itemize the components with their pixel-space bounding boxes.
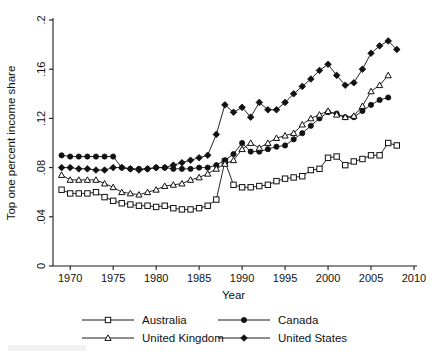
y-tick-label-4: .16 bbox=[35, 62, 47, 77]
x-tick-label-6: 2000 bbox=[316, 272, 340, 284]
y-tick-label-3: .12 bbox=[35, 111, 47, 126]
datapoint-united-kingdom-1976 bbox=[119, 189, 125, 195]
datapoint-united-states-2004 bbox=[359, 66, 366, 73]
legend-label-australia: Australia bbox=[142, 314, 187, 326]
datapoint-australia-1993 bbox=[265, 182, 270, 187]
datapoint-australia-1991 bbox=[248, 185, 253, 190]
datapoint-canada-2005 bbox=[368, 102, 373, 107]
datapoint-australia-1986 bbox=[205, 203, 210, 208]
datapoint-canada-2007 bbox=[386, 95, 391, 100]
datapoint-united-kingdom-1969 bbox=[58, 172, 64, 178]
datapoint-australia-2005 bbox=[368, 153, 373, 158]
datapoint-australia-2007 bbox=[386, 140, 391, 145]
series-line-united-states bbox=[62, 41, 397, 170]
datapoint-australia-1998 bbox=[308, 167, 313, 172]
datapoint-australia-2002 bbox=[343, 162, 348, 167]
datapoint-australia-2001 bbox=[334, 154, 339, 159]
datapoint-canada-1974 bbox=[102, 154, 107, 159]
legend-label-united-states: United States bbox=[278, 332, 347, 344]
datapoint-united-states-1984 bbox=[187, 157, 194, 164]
datapoint-australia-1995 bbox=[282, 176, 287, 181]
datapoint-united-states-1973 bbox=[93, 167, 100, 174]
datapoint-australia-1977 bbox=[128, 202, 133, 207]
datapoint-canada-1989 bbox=[231, 151, 236, 156]
legend-marker-canada bbox=[241, 317, 246, 322]
datapoint-australia-2004 bbox=[360, 156, 365, 161]
scan-artifact bbox=[8, 345, 86, 351]
datapoint-united-kingdom-1999 bbox=[316, 112, 322, 118]
datapoint-united-kingdom-1991 bbox=[248, 140, 254, 146]
datapoint-united-kingdom-1980 bbox=[153, 187, 159, 193]
datapoint-canada-1991 bbox=[248, 149, 253, 154]
datapoint-united-states-1986 bbox=[204, 152, 211, 159]
datapoint-canada-1983 bbox=[179, 166, 184, 171]
datapoint-canada-1998 bbox=[308, 123, 313, 128]
datapoint-australia-1971 bbox=[76, 191, 81, 196]
datapoint-australia-1996 bbox=[291, 175, 296, 180]
datapoint-canada-1990 bbox=[239, 140, 244, 145]
datapoint-united-states-1971 bbox=[75, 166, 82, 173]
datapoint-united-kingdom-2005 bbox=[368, 88, 374, 94]
datapoint-united-states-1983 bbox=[179, 159, 186, 166]
datapoint-united-kingdom-1986 bbox=[205, 171, 211, 177]
datapoint-australia-1997 bbox=[300, 174, 305, 179]
datapoint-australia-1979 bbox=[145, 203, 150, 208]
datapoint-united-states-1974 bbox=[101, 167, 108, 174]
datapoint-united-states-1969 bbox=[58, 164, 65, 171]
datapoint-united-states-1970 bbox=[67, 164, 74, 171]
datapoint-australia-1972 bbox=[85, 191, 90, 196]
datapoint-canada-1995 bbox=[282, 143, 287, 148]
datapoint-united-kingdom-1990 bbox=[239, 146, 245, 152]
datapoint-united-states-1987 bbox=[213, 131, 220, 138]
datapoint-australia-1982 bbox=[171, 205, 176, 210]
datapoint-australia-1975 bbox=[110, 198, 115, 203]
datapoint-australia-1989 bbox=[231, 182, 236, 187]
datapoint-australia-2008 bbox=[394, 143, 399, 148]
x-tick-label-5: 1995 bbox=[273, 272, 297, 284]
datapoint-united-kingdom-2007 bbox=[385, 72, 391, 78]
datapoint-united-states-1972 bbox=[84, 166, 91, 173]
datapoint-united-kingdom-1974 bbox=[101, 180, 107, 186]
datapoint-canada-1997 bbox=[300, 131, 305, 136]
datapoint-canada-1973 bbox=[93, 154, 98, 159]
series-line-united-kingdom bbox=[62, 75, 389, 194]
datapoint-canada-1993 bbox=[265, 147, 270, 152]
datapoint-united-states-1981 bbox=[161, 164, 168, 171]
datapoint-canada-1971 bbox=[76, 154, 81, 159]
datapoint-australia-1976 bbox=[119, 201, 124, 206]
x-tick-label-7: 2005 bbox=[359, 272, 383, 284]
datapoint-australia-2006 bbox=[377, 153, 382, 158]
y-tick-label-5: .2 bbox=[35, 15, 47, 24]
datapoint-australia-1992 bbox=[257, 183, 262, 188]
datapoint-united-states-1977 bbox=[127, 166, 134, 173]
datapoint-australia-2000 bbox=[325, 155, 330, 160]
datapoint-australia-1999 bbox=[317, 166, 322, 171]
datapoint-australia-1978 bbox=[136, 203, 141, 208]
datapoint-canada-1969 bbox=[59, 153, 64, 158]
x-tick-label-4: 1990 bbox=[230, 272, 254, 284]
datapoint-canada-2004 bbox=[360, 108, 365, 113]
datapoint-canada-2006 bbox=[377, 97, 382, 102]
datapoint-united-kingdom-1975 bbox=[110, 184, 116, 190]
datapoint-canada-1986 bbox=[205, 165, 210, 170]
datapoint-canada-1972 bbox=[85, 154, 90, 159]
x-axis-title: Year bbox=[222, 289, 245, 301]
datapoint-united-kingdom-1997 bbox=[299, 121, 305, 127]
datapoint-australia-1981 bbox=[162, 203, 167, 208]
legend-label-canada: Canada bbox=[278, 314, 319, 326]
datapoint-united-states-1985 bbox=[196, 154, 203, 161]
income-share-line-chart: 0.04.08.12.16.21970197519801985199019952… bbox=[0, 0, 432, 358]
y-axis-title: Top one percent income share bbox=[5, 66, 17, 221]
x-tick-label-1: 1975 bbox=[101, 272, 125, 284]
datapoint-united-kingdom-1993 bbox=[265, 140, 271, 146]
datapoint-canada-1985 bbox=[197, 165, 202, 170]
datapoint-canada-1970 bbox=[68, 154, 73, 159]
datapoint-canada-1975 bbox=[111, 154, 116, 159]
legend-marker-united-states bbox=[241, 335, 248, 342]
datapoint-australia-1985 bbox=[196, 205, 201, 210]
datapoint-australia-1970 bbox=[67, 191, 72, 196]
datapoint-united-kingdom-1992 bbox=[256, 145, 262, 151]
datapoint-united-kingdom-1983 bbox=[179, 180, 185, 186]
datapoint-canada-1994 bbox=[274, 144, 279, 149]
datapoint-united-kingdom-2004 bbox=[359, 103, 365, 109]
